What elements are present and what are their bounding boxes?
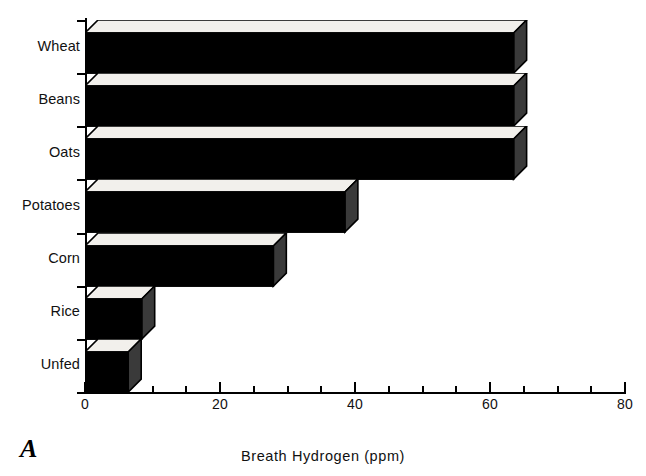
x-axis-minor-tick <box>320 386 322 393</box>
x-axis-major-tick <box>219 382 221 393</box>
x-axis-tick-label-80: 80 <box>605 396 645 412</box>
x-axis-minor-tick <box>388 386 390 393</box>
bar-geometry <box>85 20 529 75</box>
x-axis-minor-tick <box>523 386 525 393</box>
bar-geometry <box>85 339 143 394</box>
x-axis-minor-tick <box>590 386 592 393</box>
bar-corn <box>85 233 286 286</box>
bar-rice <box>85 286 155 339</box>
bar-top-face <box>85 20 527 33</box>
bar-top-face <box>85 126 527 139</box>
x-axis-major-tick <box>624 382 626 393</box>
category-label-corn: Corn <box>48 250 80 266</box>
bar-top-face <box>85 73 527 86</box>
bar-front-face <box>85 192 345 232</box>
bar-oats <box>85 126 527 179</box>
bar-front-face <box>85 299 142 339</box>
category-label-beans: Beans <box>38 91 80 107</box>
bar-geometry <box>85 233 288 288</box>
bar-geometry <box>85 286 157 341</box>
bar-geometry <box>85 126 529 181</box>
bar-wheat <box>85 20 527 73</box>
breath-hydrogen-bar-chart: WheatBeansOatsPotatoesCornRiceUnfed 0204… <box>0 0 646 476</box>
bar-potatoes <box>85 179 358 232</box>
bar-front-face <box>85 246 273 286</box>
bar-geometry <box>85 73 529 128</box>
x-axis-minor-tick <box>185 386 187 393</box>
category-label-unfed: Unfed <box>41 356 80 372</box>
category-label-wheat: Wheat <box>38 38 80 54</box>
x-axis-minor-tick <box>422 386 424 393</box>
bar-front-face <box>85 139 514 179</box>
x-axis-tick-label-20: 20 <box>200 396 240 412</box>
x-axis-tick-label-60: 60 <box>470 396 510 412</box>
x-axis-minor-tick <box>557 386 559 393</box>
x-axis-minor-tick <box>118 386 120 393</box>
x-axis-major-tick <box>84 382 86 393</box>
bar-front-face <box>85 352 128 392</box>
bar-front-face <box>85 86 514 126</box>
bar-top-face <box>85 179 358 192</box>
x-axis-title: Breath Hydrogen (ppm) <box>0 448 646 464</box>
category-label-potatoes: Potatoes <box>22 197 80 213</box>
bar-beans <box>85 73 527 126</box>
x-axis-tick-label-40: 40 <box>335 396 375 412</box>
bar-top-face <box>85 233 286 246</box>
bar-geometry <box>85 179 360 234</box>
panel-label: A <box>20 434 37 464</box>
x-axis-major-tick <box>354 382 356 393</box>
x-axis-minor-tick <box>455 386 457 393</box>
bar-unfed <box>85 339 141 392</box>
x-axis-minor-tick <box>152 386 154 393</box>
x-axis-minor-tick <box>287 386 289 393</box>
category-label-oats: Oats <box>49 144 80 160</box>
x-axis-minor-tick <box>253 386 255 393</box>
bar-front-face <box>85 33 514 73</box>
category-label-rice: Rice <box>51 303 80 319</box>
x-axis-tick-label-0: 0 <box>65 396 105 412</box>
x-axis-major-tick <box>489 382 491 393</box>
